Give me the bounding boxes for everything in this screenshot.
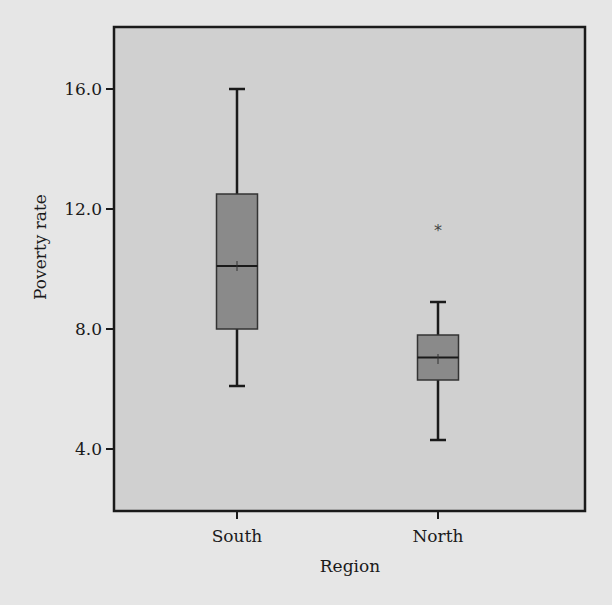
box-plot-chart: 4.08.012.016.0 SouthNorth * Region Pover… — [0, 0, 612, 605]
x-tick-label: North — [412, 526, 463, 546]
plot-area — [114, 27, 585, 511]
x-axis-title: Region — [320, 556, 380, 576]
y-tick-label: 8.0 — [75, 319, 102, 339]
x-tick-label: South — [212, 526, 263, 546]
y-axis-title: Poverty rate — [30, 194, 50, 300]
y-tick-label: 16.0 — [64, 79, 102, 99]
y-tick-label: 12.0 — [64, 199, 102, 219]
outlier-point: * — [434, 221, 442, 240]
y-tick-label: 4.0 — [75, 439, 102, 459]
